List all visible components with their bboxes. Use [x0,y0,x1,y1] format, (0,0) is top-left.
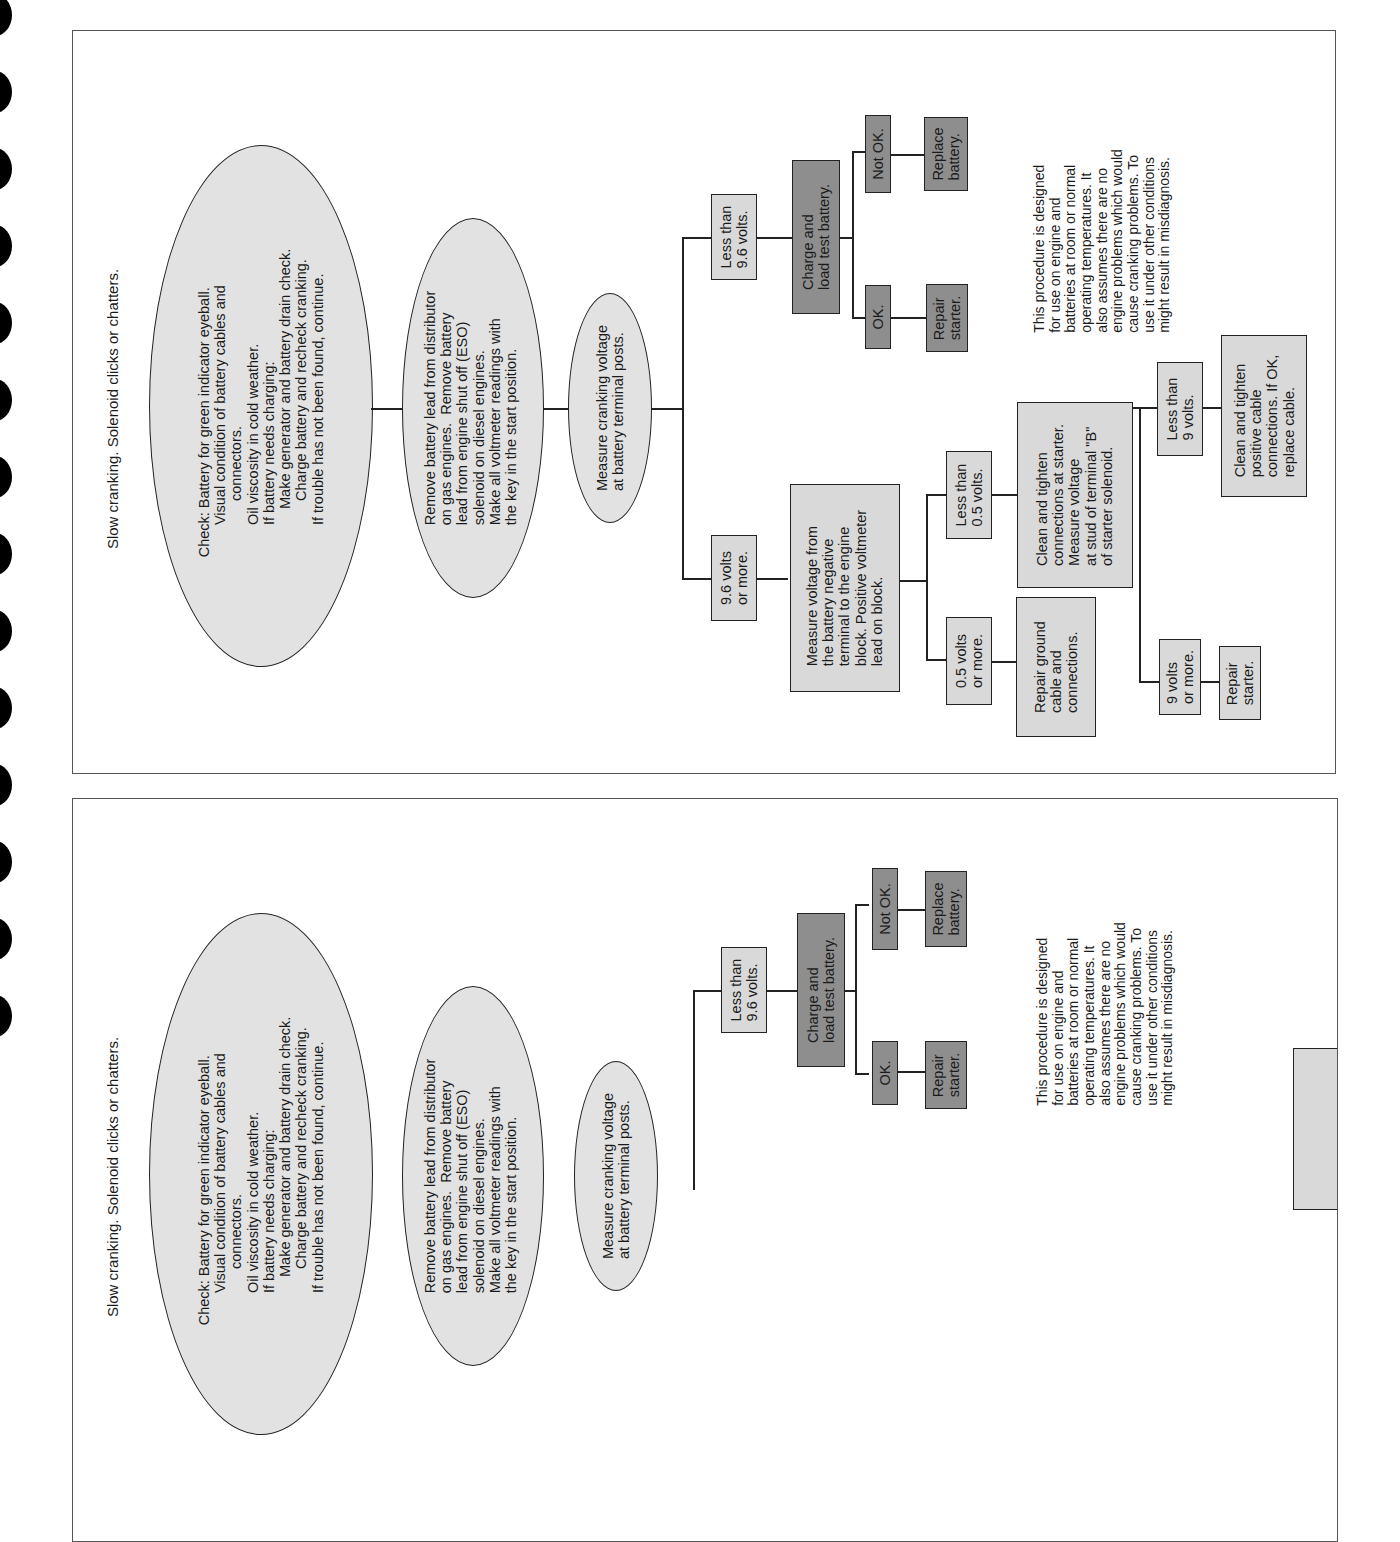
clean-positive-box [1293,1048,1338,1210]
more-than-0-5-label: 0.5 volts or more. [953,634,985,688]
less-than-0-5-label: Less than 0.5 volts. [953,464,985,527]
connector [1139,681,1159,683]
connector [890,317,926,319]
connector [766,990,798,992]
connector [756,237,792,239]
connector [897,1071,927,1073]
connector [371,408,403,410]
connector [991,494,1017,496]
connector [1139,407,1141,682]
connector [693,990,723,992]
clean-starter-label: Clean and tighten connections at starter… [1034,424,1115,566]
replace-battery-label: Replace battery. [930,882,962,935]
less-than-9-label: Less than 9 volts. [1164,378,1196,441]
measure-cranking-text: Measure cranking voltage at battery term… [600,1093,632,1259]
binder-hole [0,995,12,1037]
connector [855,904,869,906]
procedure-note: This procedure is designed for use on en… [1032,149,1173,333]
measure-cranking-text: Measure cranking voltage at battery term… [594,325,626,491]
connector [926,494,946,496]
repair-ground-label: Repair ground cable and connections. [1032,621,1081,713]
replace-battery-label: Replace battery. [930,127,962,180]
connector [682,237,712,239]
connector [682,237,684,579]
binder-hole [0,456,12,498]
charge-load-label: Charge and load test battery. [805,937,837,1043]
connector [991,661,1017,663]
more-than-9-6-label: 9.6 volts or more. [718,551,750,605]
flowchart-title: Slow cranking. Solenoid clicks or chatte… [105,1037,122,1317]
flowchart-panel-bottom: Slow cranking. Solenoid clicks or chatte… [72,798,1338,1542]
binder-hole [0,302,12,344]
connector [1200,681,1220,683]
check-text: Check: Battery for green indicator eyeba… [196,1017,326,1326]
clean-positive-label: Clean and tighten positive cable connect… [1232,355,1297,478]
not-ok-label: Not OK. [877,883,893,935]
ok-label: OK. [877,1061,893,1086]
connector [1132,407,1160,409]
connector [890,154,926,156]
binder-hole [0,379,12,421]
measure-negative-label: Measure voltage from the battery negativ… [804,510,885,666]
less-than-9-6-label: Less than 9.6 volts. [728,959,760,1022]
connector [693,990,695,1190]
binder-hole [0,841,12,883]
connector [852,317,866,319]
connector [756,578,788,580]
more-than-9-label: 9 volts or more. [1164,650,1196,704]
repair-starter-label-2: Repair starter. [1224,661,1256,705]
binder-hole [0,687,12,729]
not-ok-label: Not OK. [870,128,886,180]
remove-lead-text: Remove battery lead from distributor on … [422,1059,519,1294]
flowchart-title: Slow cranking. Solenoid clicks or chatte… [105,269,122,549]
connector [899,580,927,582]
binder-hole [0,610,12,652]
binder-hole [0,225,12,267]
binder-hole [0,0,12,36]
binder-hole [0,764,12,806]
connector [651,408,683,410]
connector [926,659,946,661]
connector [852,151,854,317]
connector [839,237,853,239]
remove-lead-text: Remove battery lead from distributor on … [422,291,519,526]
less-than-9-6-label: Less than 9.6 volts. [718,206,750,269]
flowchart-panel-top: Slow cranking. Solenoid clicks or chatte… [72,30,1336,774]
connector [543,408,569,410]
repair-starter-label-1: Repair starter. [930,1053,962,1097]
connector [682,578,712,580]
charge-load-label: Charge and load test battery. [800,184,832,290]
connector [926,494,928,660]
connector [855,904,857,1074]
ok-label: OK. [870,305,886,330]
check-text: Check: Battery for green indicator eyeba… [196,249,326,558]
connector [852,151,866,153]
connector [897,909,927,911]
binder-hole [0,148,12,190]
procedure-note: This procedure is designed for use on en… [1035,922,1176,1106]
binder-hole [0,918,12,960]
binder-hole [0,533,12,575]
repair-starter-label-1: Repair starter. [931,296,963,340]
binder-hole [0,71,12,113]
connector [855,1073,869,1075]
